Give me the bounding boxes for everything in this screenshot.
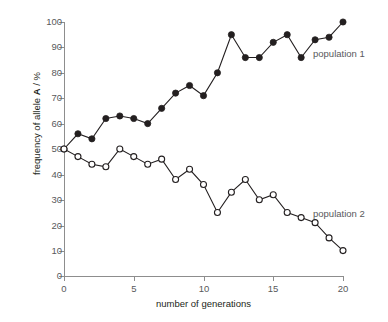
series-points-population-1: [61, 19, 346, 152]
data-point: [214, 210, 220, 216]
data-point: [298, 54, 304, 60]
data-point: [312, 37, 318, 43]
data-point: [284, 32, 290, 38]
data-point: [340, 248, 346, 254]
data-point: [214, 70, 220, 76]
data-point: [131, 154, 137, 160]
data-point: [131, 115, 137, 121]
series-line-population-1: [64, 22, 343, 149]
series-points-population-2: [61, 146, 346, 254]
data-point: [103, 164, 109, 170]
data-point: [256, 54, 262, 60]
data-point: [173, 90, 179, 96]
data-point: [61, 146, 67, 152]
data-point: [186, 82, 192, 88]
data-point: [256, 197, 262, 203]
data-point: [173, 176, 179, 182]
data-point: [326, 34, 332, 40]
data-point: [228, 32, 234, 38]
data-point: [145, 161, 151, 167]
data-point: [89, 136, 95, 142]
data-point: [201, 182, 207, 188]
data-point: [145, 121, 151, 127]
data-point: [270, 39, 276, 45]
data-point: [284, 210, 290, 216]
data-point: [242, 176, 248, 182]
data-point: [228, 189, 234, 195]
data-point: [312, 220, 318, 226]
data-point: [89, 161, 95, 167]
chart-container: 100 90 80 70 60 50 40 30 20 10 0 0 5 10 …: [0, 0, 388, 322]
data-point: [326, 235, 332, 241]
data-point: [187, 166, 193, 172]
data-point: [298, 215, 304, 221]
data-point: [75, 154, 81, 160]
data-point: [75, 131, 81, 137]
data-point: [270, 192, 276, 198]
series-annotation-population-1: population 1: [313, 48, 365, 59]
data-point: [340, 19, 346, 25]
data-point: [117, 146, 123, 152]
data-point: [200, 93, 206, 99]
data-point: [159, 156, 165, 162]
data-point: [117, 113, 123, 119]
data-point: [242, 54, 248, 60]
series-annotation-population-2: population 2: [313, 208, 365, 219]
data-point: [103, 115, 109, 121]
data-point: [159, 105, 165, 111]
